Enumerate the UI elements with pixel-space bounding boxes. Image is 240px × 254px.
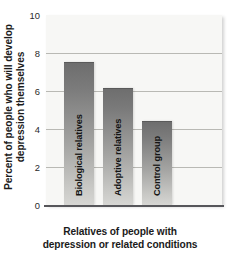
x-axis-title-line2: depression or related conditions: [10, 239, 230, 252]
y-axis-tick-label: 6: [24, 86, 40, 97]
x-axis-title-line1: Relatives of people with: [63, 226, 177, 237]
bar: Control group: [142, 121, 172, 205]
bar: Adoptive relatives: [103, 88, 133, 205]
plot-area: Biological relativesAdoptive relativesCo…: [46, 15, 222, 205]
bar-label: Biological relatives: [74, 114, 84, 196]
y-axis-tick-label: 2: [24, 162, 40, 173]
y-axis-tick-label: 0: [24, 200, 40, 211]
x-axis-title: Relatives of people with depression or r…: [10, 226, 230, 251]
y-axis-tick-label: 10: [24, 10, 40, 21]
y-axis-tick-label: 4: [24, 124, 40, 135]
bar-label: Adoptive relatives: [113, 119, 123, 196]
y-axis-title-line1: Percent of people who will develop: [3, 24, 14, 190]
y-axis-tick-label: 8: [24, 48, 40, 59]
x-axis-line: [44, 205, 224, 207]
bar-label: Control group: [152, 136, 162, 196]
bar: Biological relatives: [64, 62, 94, 206]
bar-chart-figure: Percent of people who will develop depre…: [0, 0, 240, 254]
gridline: [46, 53, 222, 54]
y-axis-tick-labels: 1086420: [22, 15, 40, 205]
